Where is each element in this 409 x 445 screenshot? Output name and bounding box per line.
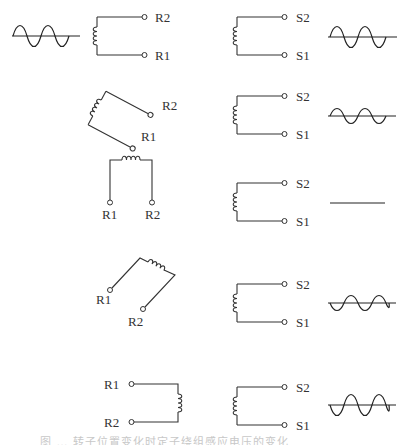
output-sine-row1 — [328, 27, 397, 48]
output-sine-row4 — [328, 296, 396, 311]
rotor-winding-row1: R2 R1 — [93, 10, 170, 63]
stator-winding-row3: S2 S1 — [233, 176, 309, 229]
label-r1: R1 — [96, 292, 111, 307]
label-r2: R2 — [145, 207, 160, 222]
label-r1: R1 — [155, 48, 170, 63]
rotor-winding-row4: R1 R2 — [96, 258, 175, 329]
label-s1: S1 — [296, 48, 310, 63]
label-r2: R2 — [128, 314, 143, 329]
rotor-winding-row2: R2 R1 — [84, 87, 178, 152]
label-s2: S2 — [296, 89, 310, 104]
label-r1: R1 — [104, 377, 119, 392]
label-s2: S2 — [296, 380, 310, 395]
stator-winding-row5: S2 S1 — [233, 380, 309, 433]
label-s2: S2 — [296, 176, 310, 191]
label-s1: S1 — [296, 315, 310, 330]
label-r2: R2 — [162, 98, 177, 113]
label-r2: R2 — [155, 10, 170, 25]
label-r1: R1 — [102, 207, 117, 222]
rotor-winding-row3: R1 R2 — [102, 156, 160, 222]
rotor-stator-diagram: R2 R1 S2 S1 R2 R1 S2 S1 — [0, 0, 409, 445]
label-r1: R1 — [141, 129, 156, 144]
label-s2: S2 — [296, 277, 310, 292]
label-s1: S1 — [296, 214, 310, 229]
stator-winding-row1: S2 S1 — [233, 10, 309, 63]
output-sine-row2 — [328, 109, 396, 124]
label-r2: R2 — [104, 415, 119, 430]
stator-winding-row2: S2 S1 — [233, 89, 309, 142]
figure-caption: 图 … 转子位置变化时定子绕组感应电压的变化 — [40, 433, 380, 445]
excitation-sine-wave — [12, 26, 80, 47]
label-s1: S1 — [296, 127, 310, 142]
label-s1: S1 — [296, 418, 310, 433]
stator-winding-row4: S2 S1 — [233, 277, 309, 330]
output-sine-row5 — [328, 395, 396, 416]
rotor-winding-row5: R1 R2 — [104, 377, 182, 430]
label-s2: S2 — [296, 10, 310, 25]
